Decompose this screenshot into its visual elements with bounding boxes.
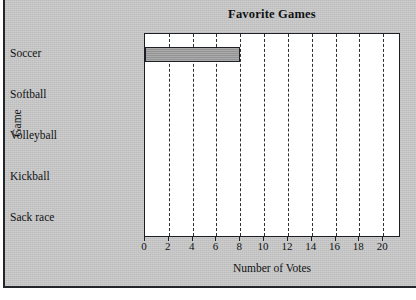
x-tick-label: 2 (165, 240, 171, 252)
chart-title: Favorite Games (144, 7, 400, 22)
bottom-margin (0, 290, 416, 300)
category-label-sack-race: Sack race (10, 211, 134, 223)
category-axis-labels: SoccerSoftballVolleyballKickballSack rac… (5, 0, 134, 288)
bar-row (145, 197, 399, 236)
y-axis-title: Game (11, 93, 23, 153)
x-axis-title: Number of Votes (144, 262, 400, 274)
category-label-soccer: Soccer (10, 47, 134, 59)
x-tick-label: 20 (377, 240, 388, 252)
bar-row (145, 116, 399, 157)
x-tick-label: 6 (213, 240, 219, 252)
category-label-volleyball: Volleyball (10, 129, 134, 141)
figure-panel: Favorite Games SoccerSoftballVolleyballK… (3, 0, 416, 288)
plot-inner (145, 34, 399, 236)
x-tick-label: 14 (305, 240, 316, 252)
x-tick-label: 18 (353, 240, 364, 252)
x-tick-label: 12 (281, 240, 292, 252)
bar-row (145, 156, 399, 197)
category-label-kickball: Kickball (10, 170, 134, 182)
left-margin (0, 0, 3, 300)
category-label-softball: Softball (10, 88, 134, 100)
x-tick-label: 8 (237, 240, 243, 252)
bar-row (145, 75, 399, 116)
bar-row (145, 34, 399, 75)
bar-soccer (145, 47, 240, 62)
x-tick-label: 4 (189, 240, 195, 252)
x-tick-label: 16 (329, 240, 340, 252)
plot-area (144, 33, 400, 237)
x-tick-label: 10 (258, 240, 269, 252)
x-tick-label: 0 (141, 240, 147, 252)
chart-screenshot: Favorite Games SoccerSoftballVolleyballK… (0, 0, 416, 300)
